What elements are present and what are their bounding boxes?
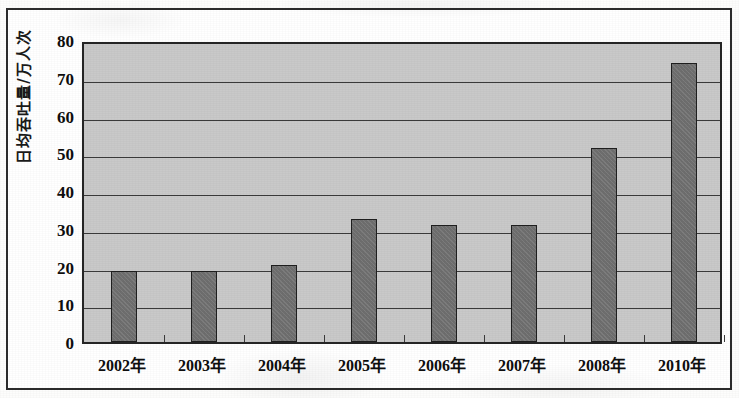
y-tick-label: 10 <box>30 296 74 316</box>
y-tick-label: 20 <box>30 259 74 279</box>
x-tick-label: 2003年 <box>178 352 226 376</box>
y-tick-label: 40 <box>30 183 74 203</box>
x-tick-label: 2006年 <box>418 352 466 376</box>
x-axis-ticks: 2002年2003年2004年2005年2006年2007年2008年2010年 <box>82 352 722 382</box>
y-axis-ticks: 01020304050607080 <box>82 42 722 344</box>
x-tick-mark <box>724 335 725 342</box>
y-tick-label: 30 <box>30 221 74 241</box>
x-tick-label: 2002年 <box>98 352 146 376</box>
y-tick-label: 60 <box>30 108 74 128</box>
x-tick-label: 2010年 <box>658 352 706 376</box>
y-tick-label: 50 <box>30 145 74 165</box>
y-tick-label: 0 <box>30 334 74 354</box>
x-tick-label: 2007年 <box>498 352 546 376</box>
y-tick-label: 70 <box>30 70 74 90</box>
y-axis-title: 日均吞吐量/万人次 <box>12 0 33 197</box>
figure-container: 日均吞吐量/万人次 01020304050607080 2002年2003年20… <box>0 0 739 398</box>
y-tick-label: 80 <box>30 32 74 52</box>
x-tick-label: 2005年 <box>338 352 386 376</box>
x-tick-label: 2008年 <box>578 352 626 376</box>
x-tick-label: 2004年 <box>258 352 306 376</box>
